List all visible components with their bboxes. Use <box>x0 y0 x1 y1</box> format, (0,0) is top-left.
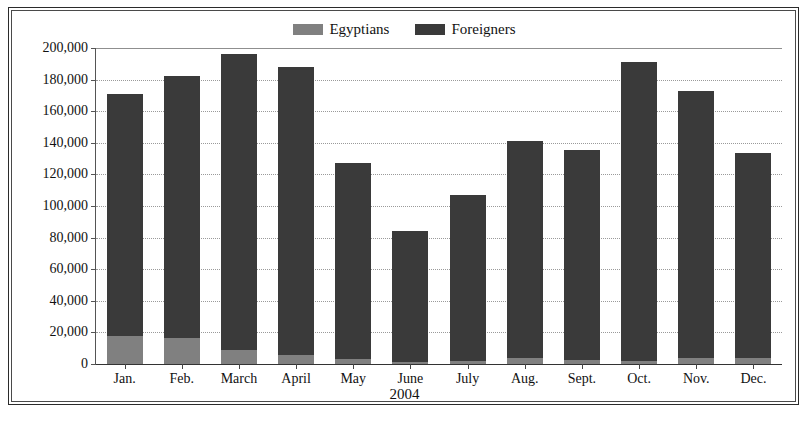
x-axis-title: 2004 <box>9 386 800 403</box>
x-tick-label: June <box>398 371 424 387</box>
y-tick-label: 180,000 <box>43 72 89 88</box>
bar-segment-egyptians <box>107 336 143 364</box>
bar-stack <box>221 48 257 364</box>
bar-segment-foreigners <box>107 94 143 337</box>
bar-stack <box>335 48 371 364</box>
bar-segment-foreigners <box>335 163 371 359</box>
bar-segment-egyptians <box>221 350 257 364</box>
bar-segment-foreigners <box>564 150 600 360</box>
bar-segment-foreigners <box>450 195 486 361</box>
bar-segment-egyptians <box>164 338 200 364</box>
bar-stack <box>678 48 714 364</box>
y-tick-label: 60,000 <box>50 261 89 277</box>
x-tick-label: Nov. <box>683 371 710 387</box>
bar-stack <box>107 48 143 364</box>
y-tick-label: 140,000 <box>43 135 89 151</box>
bar-stack <box>278 48 314 364</box>
bar-stack <box>392 48 428 364</box>
chart-figure: EgyptiansForeigners 020,00040,00060,0008… <box>0 0 809 429</box>
x-tick-mark <box>639 364 640 369</box>
bar-stack <box>621 48 657 364</box>
y-tick-label: 200,000 <box>43 40 89 56</box>
bar-stack <box>507 48 543 364</box>
x-tick-mark <box>296 364 297 369</box>
x-tick-mark <box>239 364 240 369</box>
x-tick-mark <box>125 364 126 369</box>
x-tick-label: Feb. <box>170 371 195 387</box>
bar-stack <box>564 48 600 364</box>
bar-segment-foreigners <box>507 141 543 358</box>
x-tick-mark <box>182 364 183 369</box>
x-tick-mark <box>753 364 754 369</box>
bar-segment-foreigners <box>221 54 257 349</box>
x-tick-mark <box>410 364 411 369</box>
x-tick-label: Sept. <box>568 371 596 387</box>
x-tick-mark <box>582 364 583 369</box>
y-tick-mark <box>91 364 96 365</box>
y-tick-label: 160,000 <box>43 103 89 119</box>
x-tick-mark <box>696 364 697 369</box>
x-tick-label: Oct. <box>627 371 651 387</box>
x-tick-label: Aug. <box>511 371 539 387</box>
y-tick-label: 120,000 <box>43 166 89 182</box>
x-tick-mark <box>525 364 526 369</box>
y-tick-label: 0 <box>81 356 88 372</box>
bar-stack <box>450 48 486 364</box>
bar-segment-foreigners <box>392 231 428 361</box>
bar-series-container <box>96 48 782 364</box>
bar-stack <box>164 48 200 364</box>
bar-segment-foreigners <box>278 67 314 355</box>
x-tick-label: April <box>281 371 311 387</box>
x-tick-label: July <box>456 371 479 387</box>
bar-segment-foreigners <box>164 76 200 337</box>
y-tick-label: 80,000 <box>50 230 89 246</box>
x-tick-mark <box>353 364 354 369</box>
y-tick-label: 100,000 <box>43 198 89 214</box>
x-tick-label: Jan. <box>113 371 135 387</box>
plot-wrapper: 020,00040,00060,00080,000100,000120,0001… <box>9 8 800 406</box>
x-tick-label: May <box>340 371 366 387</box>
x-tick-mark <box>468 364 469 369</box>
figure-outer-border: EgyptiansForeigners 020,00040,00060,0008… <box>8 7 799 405</box>
x-tick-label: Dec. <box>740 371 766 387</box>
x-tick-label: March <box>221 371 258 387</box>
bar-segment-egyptians <box>278 355 314 364</box>
bar-segment-foreigners <box>678 91 714 359</box>
plot-area: 020,00040,00060,00080,000100,000120,0001… <box>95 48 782 365</box>
bar-stack <box>735 48 771 364</box>
bar-segment-foreigners <box>621 62 657 361</box>
y-tick-label: 40,000 <box>50 293 89 309</box>
bar-segment-foreigners <box>735 153 771 358</box>
y-tick-label: 20,000 <box>50 324 89 340</box>
